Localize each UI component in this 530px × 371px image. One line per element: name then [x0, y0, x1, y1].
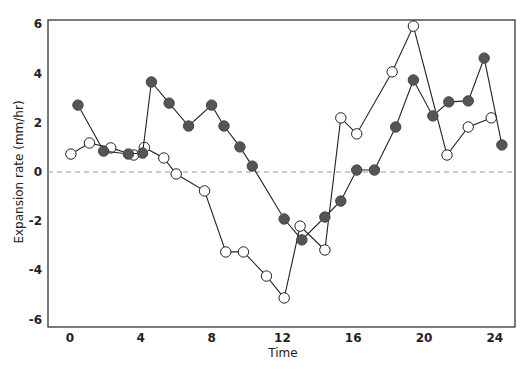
y-tick-label: -6 — [29, 313, 42, 327]
filled-data-point — [497, 140, 507, 150]
y-axis-label: Expansion rate (mm/hr) — [12, 100, 26, 243]
series-line — [71, 26, 491, 298]
filled-data-point — [336, 196, 346, 206]
filled-data-point — [352, 165, 362, 175]
open-data-point — [295, 221, 305, 231]
filled-data-point — [320, 212, 330, 222]
open-data-point — [408, 21, 418, 31]
y-tick-label: 6 — [34, 17, 42, 31]
filled-data-point — [219, 121, 229, 131]
y-tick-label: -2 — [29, 214, 42, 228]
open-data-point — [486, 113, 496, 123]
x-tick-label: 8 — [207, 331, 215, 345]
open-data-point — [66, 149, 76, 159]
filled-data-point — [206, 100, 216, 110]
filled-series — [73, 53, 507, 245]
open-data-point — [352, 129, 362, 139]
filled-data-point — [408, 75, 418, 85]
open-data-point — [261, 271, 271, 281]
x-tick-label: 0 — [66, 331, 74, 345]
filled-data-point — [428, 111, 438, 121]
y-tick-label: 4 — [34, 67, 42, 81]
x-tick-label: 16 — [345, 331, 362, 345]
x-tick-label: 4 — [137, 331, 145, 345]
filled-data-point — [164, 98, 174, 108]
open-series — [66, 21, 497, 303]
filled-data-point — [463, 96, 473, 106]
open-data-point — [171, 169, 181, 179]
filled-data-point — [183, 121, 193, 131]
y-tick-label: 2 — [34, 116, 42, 130]
open-data-point — [199, 186, 209, 196]
y-tick-label: -4 — [29, 263, 42, 277]
open-data-point — [221, 247, 231, 257]
open-data-point — [463, 122, 473, 132]
filled-data-point — [279, 214, 289, 224]
filled-data-point — [123, 149, 133, 159]
x-tick-label: 20 — [416, 331, 433, 345]
filled-data-point — [235, 142, 245, 152]
filled-data-point — [98, 146, 108, 156]
data-series — [66, 21, 507, 303]
filled-data-point — [73, 100, 83, 110]
x-axis-label: Time — [267, 346, 297, 360]
expansion-rate-chart: 048121620246420-2-4-6 Time Expansion rat… — [0, 0, 530, 371]
filled-data-point — [479, 53, 489, 63]
open-data-point — [84, 138, 94, 148]
x-tick-label: 12 — [274, 331, 291, 345]
x-tick-label: 24 — [486, 331, 503, 345]
filled-data-point — [146, 77, 156, 87]
filled-data-point — [390, 122, 400, 132]
filled-data-point — [444, 97, 454, 107]
filled-data-point — [247, 161, 257, 171]
open-data-point — [320, 245, 330, 255]
open-data-point — [238, 247, 248, 257]
filled-data-point — [137, 148, 147, 158]
open-data-point — [279, 293, 289, 303]
open-data-point — [442, 150, 452, 160]
filled-data-point — [297, 235, 307, 245]
y-tick-label: 0 — [34, 165, 42, 179]
filled-data-point — [369, 165, 379, 175]
open-data-point — [336, 113, 346, 123]
plot-axes — [48, 20, 515, 327]
plot-frame — [48, 20, 515, 327]
open-data-point — [159, 153, 169, 163]
tick-labels: 048121620246420-2-4-6 — [29, 17, 503, 345]
open-data-point — [387, 67, 397, 77]
